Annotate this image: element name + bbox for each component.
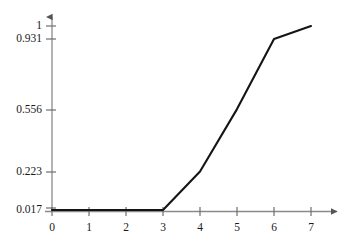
- y-tick-label: 0.931: [2, 33, 42, 45]
- x-tick-label: 5: [234, 222, 240, 234]
- x-tick-label: 4: [197, 222, 203, 234]
- x-tick-label: 1: [86, 222, 92, 234]
- chart-plot-area: [0, 0, 350, 242]
- x-tick-label: 2: [123, 222, 129, 234]
- y-tick-label: 0.223: [2, 166, 42, 178]
- x-tick-label: 6: [271, 222, 277, 234]
- x-tick-label: 3: [160, 222, 166, 234]
- x-tick-label: 7: [308, 222, 314, 234]
- y-tick-label: 0.017: [2, 204, 42, 216]
- chart-container: 1 0.931 0.556 0.223 0.017 0 1 2 3 4 5 6 …: [0, 0, 350, 242]
- y-axis-tick-marks: [46, 26, 56, 208]
- y-tick-label: 1: [2, 20, 42, 32]
- y-tick-label: 0.556: [2, 104, 42, 116]
- data-series-line: [52, 26, 311, 210]
- x-tick-label: 0: [49, 222, 55, 234]
